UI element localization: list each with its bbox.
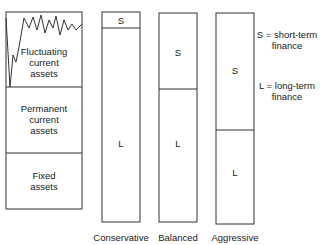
- aggressive-short-label: S: [232, 65, 238, 76]
- label-fluctuating-2: current: [29, 57, 59, 68]
- label-fixed-2: assets: [30, 181, 58, 192]
- label-permanent-1: Permanent: [21, 103, 68, 114]
- balanced-box: [159, 13, 197, 222]
- conservative-box: [102, 12, 140, 222]
- legend-short-1: S = short-term: [257, 29, 318, 40]
- aggressive-long-label: L: [232, 167, 237, 178]
- conservative-caption: Conservative: [93, 232, 148, 243]
- conservative-short-label: S: [118, 15, 124, 26]
- working-capital-financing-diagram: Fluctuating current assets Permanent cur…: [0, 0, 324, 245]
- assets-column: Fluctuating current assets Permanent cur…: [6, 12, 82, 209]
- aggressive-box: [216, 13, 254, 224]
- aggressive-caption: Aggressive: [212, 232, 259, 243]
- legend-long-1: L = long-term: [259, 80, 315, 91]
- balanced-column: S L Balanced: [158, 13, 198, 243]
- legend-long-2: finance: [272, 91, 303, 102]
- legend-short-2: finance: [272, 40, 303, 51]
- label-fluctuating-3: assets: [30, 68, 58, 79]
- balanced-caption: Balanced: [158, 232, 198, 243]
- label-fixed-1: Fixed: [32, 170, 55, 181]
- aggressive-column: S L Aggressive: [212, 13, 259, 243]
- conservative-column: S L Conservative: [93, 12, 148, 243]
- label-permanent-2: current: [29, 114, 59, 125]
- conservative-long-label: L: [118, 138, 123, 149]
- balanced-long-label: L: [175, 138, 180, 149]
- label-fluctuating-1: Fluctuating: [21, 46, 67, 57]
- legend: S = short-term finance L = long-term fin…: [257, 29, 318, 102]
- label-permanent-3: assets: [30, 125, 58, 136]
- balanced-short-label: S: [175, 47, 181, 58]
